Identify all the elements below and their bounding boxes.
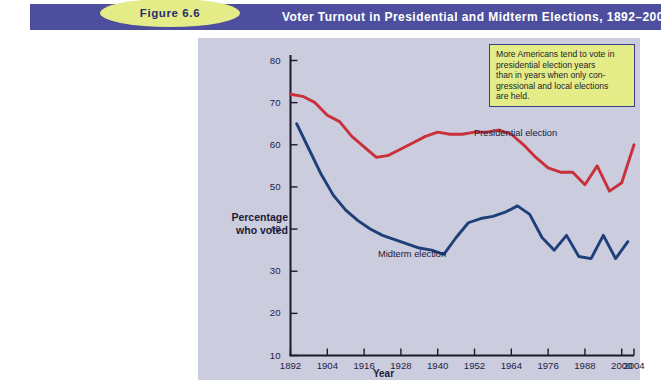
y-tick-label: 60 [255, 139, 281, 150]
x-tick-label: 1904 [306, 360, 348, 371]
x-tick-label: 2004 [613, 360, 655, 371]
series-lines [291, 94, 635, 258]
series-line-midterm [297, 124, 628, 259]
y-axis-ticks [291, 61, 298, 356]
callout-line-5: are held. [496, 91, 628, 102]
series-label-midterm: Midterm election [378, 249, 446, 259]
callout-line-2: presidential election years [496, 60, 628, 71]
y-tick-label: 80 [255, 55, 281, 66]
callout-line-1: More Americans tend to vote in [496, 49, 628, 60]
x-tick-label: 1988 [564, 360, 606, 371]
callout-line-4: gressional and local elections [496, 81, 628, 92]
x-axis-ticks [291, 349, 635, 356]
x-tick-label: 1952 [454, 360, 496, 371]
series-line-presidential [291, 94, 635, 191]
y-tick-label: 20 [255, 307, 281, 318]
series-label-presidential: Presidential election [474, 128, 557, 138]
y-tick-label: 50 [255, 181, 281, 192]
x-tick-label: 1976 [527, 360, 569, 371]
y-tick-label: 40 [255, 223, 281, 234]
x-tick-label: 1928 [380, 360, 422, 371]
x-tick-label: 1892 [270, 360, 312, 371]
callout-annotation-box: More Americans tend to vote in president… [489, 44, 635, 107]
y-tick-label: 30 [255, 265, 281, 276]
x-tick-label: 1940 [417, 360, 459, 371]
x-tick-label: 1964 [490, 360, 532, 371]
callout-line-3: than in years when only con- [496, 70, 628, 81]
y-tick-label: 70 [255, 97, 281, 108]
x-tick-label: 1916 [343, 360, 385, 371]
